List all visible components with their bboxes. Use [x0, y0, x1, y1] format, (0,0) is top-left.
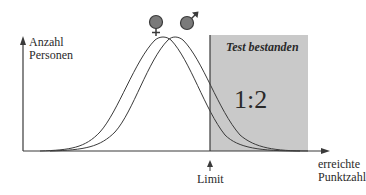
y-axis-label: Anzahl Personen: [29, 36, 73, 62]
male-symbol-icon: [181, 12, 199, 30]
y-axis-arrow-icon: [20, 36, 26, 45]
pass-region-title: Test bestanden: [226, 40, 299, 55]
x-axis-arrow-icon: [321, 148, 330, 154]
x-axis-label: erreichte Punktzahl: [318, 158, 366, 184]
x-axis-label-line2: Punktzahl: [318, 171, 366, 184]
limit-arrow-icon: [207, 160, 213, 167]
y-axis-label-line2: Personen: [29, 49, 73, 62]
limit-label: Limit: [197, 173, 224, 186]
pass-ratio: 1:2: [234, 86, 267, 114]
female-symbol-icon: [150, 16, 163, 37]
